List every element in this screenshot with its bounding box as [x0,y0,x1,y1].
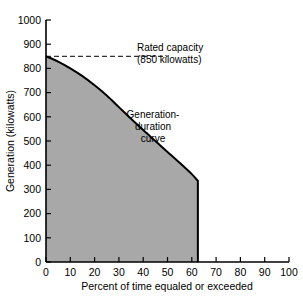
x-tick-label: 30 [113,266,125,278]
y-tick-label: 200 [23,207,41,219]
curve-label-line3: curve [141,133,166,144]
y-tick-label: 100 [23,232,41,244]
y-tick-label: 500 [23,135,41,147]
x-axis-title: Percent of time equaled or exceeded [81,280,253,292]
rated-capacity-label-line1: Rated capacity [137,42,203,53]
y-tick-label: 0 [35,256,41,268]
x-tick-label: 40 [137,266,149,278]
x-tick-label: 0 [43,266,49,278]
x-tick-label: 20 [89,266,101,278]
y-axis-title: Generation (kilowatts) [4,90,16,192]
x-tick-label: 50 [162,266,174,278]
x-tick-label: 80 [235,266,247,278]
x-tick-label: 90 [259,266,271,278]
rated-capacity-label-line2: (850 kilowatts) [137,54,201,65]
x-tick-label: 10 [64,266,76,278]
y-tick-label: 600 [23,111,41,123]
y-tick-label: 1000 [18,14,42,26]
y-tick-label: 300 [23,183,41,195]
x-tick-label: 100 [280,266,298,278]
y-tick-label: 700 [23,86,41,98]
x-tick-label: 60 [186,266,198,278]
y-tick-label: 800 [23,62,41,74]
generation-duration-chart: 01002003004005006007008009001000 0102030… [0,0,303,299]
chart-canvas: 01002003004005006007008009001000 0102030… [0,0,303,299]
curve-label-line1: Generation- [127,109,180,120]
curve-label-line2: duration [135,121,171,132]
y-tick-label: 400 [23,159,41,171]
y-tick-label: 900 [23,38,41,50]
x-tick-label: 70 [210,266,222,278]
